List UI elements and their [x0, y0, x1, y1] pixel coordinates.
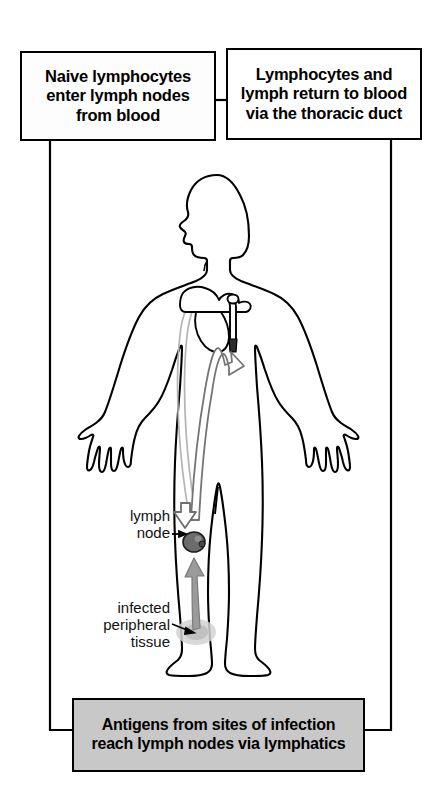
duct-knob [228, 295, 239, 304]
thoracic-duct-entry [229, 300, 236, 345]
lymph-node-callout-label: lymph node [88, 508, 170, 542]
duct-tip [229, 339, 237, 352]
antigens-box: Antigens from sites of infection reach l… [72, 698, 365, 772]
lymph-node-marker [183, 532, 205, 552]
lymph-node-hilum [199, 541, 205, 547]
antigens-box-text: Antigens from sites of infection reach l… [87, 716, 349, 753]
lymphatic-circulation-diagram: Naive lymphocytes enter lymph nodes from… [0, 0, 435, 799]
infected-tissue-callout-label: infected peripheral tissue [62, 600, 170, 650]
right-rail-connector [365, 140, 391, 730]
naive-lymphocytes-box-text: Naive lymphocytes enter lymph nodes from… [41, 67, 195, 124]
thoracic-duct-box: Lymphocytes and lymph return to blood vi… [226, 48, 422, 140]
thoracic-duct-box-text: Lymphocytes and lymph return to blood vi… [237, 65, 411, 122]
naive-lymphocytes-box: Naive lymphocytes enter lymph nodes from… [20, 51, 216, 141]
